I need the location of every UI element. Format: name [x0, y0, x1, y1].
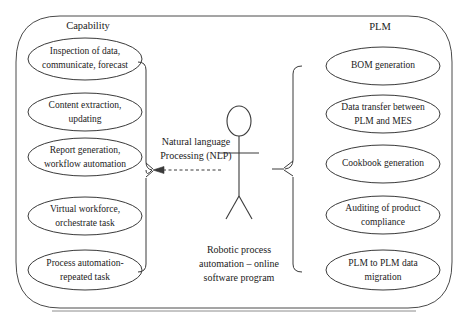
plm-use-case-bom-generation[interactable]: BOM generation: [326, 47, 440, 85]
ellipse-shape: [326, 95, 440, 133]
use-case-label-line-1: BOM generation: [351, 60, 415, 70]
ellipse-shape: [28, 197, 142, 235]
use-case-label-line-1: Cookbook generation: [342, 158, 424, 168]
actor-head: [227, 106, 251, 136]
actor-caption-line-1: Robotic process: [207, 244, 271, 255]
use-case-label-line-1: Content extraction,: [49, 100, 122, 110]
actor-right-leg: [239, 196, 252, 219]
plm-connector-stub-lower: [284, 170, 293, 176]
use-case-label-line-2: orchestrate task: [55, 218, 115, 228]
use-case-label-line-2: updating: [68, 114, 101, 124]
plm-use-case-auditing-compliance[interactable]: Auditing of product compliance: [326, 196, 440, 234]
use-case-label-line-2: workflow automation: [44, 159, 126, 169]
plm-use-case-plm-to-plm-migration[interactable]: PLM to PLM data migration: [326, 250, 440, 290]
actor-left-leg: [226, 196, 239, 219]
plm-group-label: PLM: [369, 21, 391, 32]
capability-use-case-process-automation[interactable]: Process automation- repeated task: [28, 250, 142, 290]
capability-use-case-virtual-workforce[interactable]: Virtual workforce, orchestrate task: [28, 197, 142, 235]
use-case-diagram: Capability PLM Inspection of data, commu…: [0, 0, 468, 331]
nlp-dashed-arrow-head: [153, 167, 164, 174]
plm-connector-brace: [285, 66, 302, 272]
nlp-label-line-2: Processing (NLP): [160, 150, 231, 162]
use-case-label-line-1: Auditing of product: [345, 203, 421, 213]
use-case-label-line-1: Report generation,: [50, 145, 121, 155]
use-case-label-line-1: Data transfer between: [341, 102, 425, 112]
use-case-label-line-1: Virtual workforce,: [50, 204, 120, 214]
use-case-label-line-1: Inspection of data,: [50, 46, 120, 56]
plm-use-case-cookbook-generation[interactable]: Cookbook generation: [326, 145, 440, 183]
ellipse-shape: [28, 93, 142, 131]
ellipse-shape: [326, 250, 440, 290]
use-case-label-line-2: compliance: [361, 217, 405, 227]
capability-group-label: Capability: [66, 20, 110, 31]
diagram-canvas: Capability PLM Inspection of data, commu…: [0, 0, 468, 331]
capability-use-case-report-generation[interactable]: Report generation, workflow automation: [28, 138, 142, 176]
ellipse-shape: [28, 38, 142, 80]
capability-use-case-inspection-of-data[interactable]: Inspection of data, communicate, forecas…: [28, 38, 142, 80]
use-case-label-line-1: Process automation-: [46, 258, 123, 268]
actor-caption-line-3: software program: [204, 272, 275, 283]
use-case-label-line-2: repeated task: [60, 272, 110, 282]
capability-use-case-content-extraction[interactable]: Content extraction, updating: [28, 93, 142, 131]
use-case-label-line-1: PLM to PLM data: [348, 258, 418, 268]
actor-caption-line-2: automation – online: [199, 258, 280, 269]
ellipse-shape: [326, 196, 440, 234]
nlp-label-line-1: Natural language: [162, 136, 231, 147]
plm-use-case-data-transfer[interactable]: Data transfer between PLM and MES: [326, 95, 440, 133]
use-case-label-line-2: migration: [365, 272, 402, 282]
use-case-label-line-2: communicate, forecast: [42, 60, 128, 70]
actor-robotic-process-automation[interactable]: [219, 106, 259, 219]
use-case-label-line-2: PLM and MES: [354, 116, 412, 126]
ellipse-shape: [28, 138, 142, 176]
ellipse-shape: [28, 250, 142, 290]
